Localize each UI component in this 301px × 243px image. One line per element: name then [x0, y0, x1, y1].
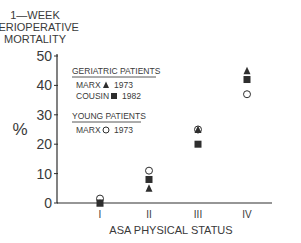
y-tick-label: 20 — [36, 136, 52, 152]
x-tick-label: III — [194, 209, 202, 220]
legend: GERIATRIC PATIENTSMARX1973COUSIN1982YOUN… — [72, 66, 161, 135]
x-axis-label: ASA PHYSICAL STATUS — [109, 224, 232, 236]
square-marker-icon — [244, 76, 251, 83]
circle-marker-icon — [244, 91, 251, 98]
triangle-marker-icon — [103, 82, 109, 89]
x-axis: IIIIIIIVASA PHYSICAL STATUS — [57, 203, 272, 236]
square-marker-icon — [111, 93, 117, 99]
y-axis: 01020304050% — [12, 48, 58, 211]
triangle-marker-icon — [146, 184, 153, 192]
chart-title: 1—WEEKPERIOPERATIVEMORTALITY — [0, 9, 79, 45]
y-tick-label: 30 — [36, 107, 52, 123]
square-marker-icon — [195, 141, 202, 148]
y-tick-label: 0 — [44, 195, 52, 211]
legend-year: 1982 — [122, 91, 141, 101]
mortality-chart: 1—WEEKPERIOPERATIVEMORTALITY 01020304050… — [0, 0, 301, 243]
x-tick-label: I — [99, 209, 102, 220]
title-line: PERIOPERATIVE — [0, 21, 79, 33]
legend-heading-young: YOUNG PATIENTS — [72, 111, 146, 121]
legend-year: 1973 — [114, 125, 133, 135]
y-tick-label: 50 — [36, 48, 52, 64]
y-tick-label: 10 — [36, 166, 52, 182]
legend-author: COUSIN — [76, 91, 109, 101]
x-tick-label: II — [146, 209, 152, 220]
title-line: 1—WEEK — [10, 9, 60, 21]
triangle-marker-icon — [244, 67, 251, 75]
legend-author: MARX — [76, 80, 101, 90]
legend-year: 1973 — [114, 80, 133, 90]
circle-marker-icon — [103, 127, 109, 133]
circle-marker-icon — [146, 167, 153, 174]
legend-author: MARX — [76, 125, 101, 135]
legend-heading-geriatric: GERIATRIC PATIENTS — [72, 66, 161, 76]
square-marker-icon — [146, 176, 153, 183]
y-axis-label: % — [12, 120, 27, 139]
y-tick-label: 40 — [36, 77, 52, 93]
x-tick-label: IV — [242, 209, 252, 220]
title-line: MORTALITY — [4, 33, 67, 45]
